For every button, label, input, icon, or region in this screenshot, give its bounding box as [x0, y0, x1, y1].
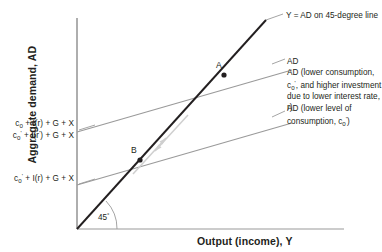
forty-five-degree-line [77, 20, 266, 229]
point-b-marker [137, 157, 142, 162]
eq-upper-2-mid: + I(r [22, 131, 39, 140]
intercept-equation-lower: c0' + I(r) + G + X [0, 172, 74, 185]
arrow-down-left [155, 115, 188, 151]
point-b-label: B [131, 145, 137, 156]
angle-label-value: 45 [98, 213, 107, 222]
y-axis-title: Aggregate demand, AD [26, 25, 39, 185]
x-axis-title: Output (income), Y [197, 235, 293, 248]
leader-line-eq-lower [79, 179, 95, 184]
eq-upper-2-rest: ) + G + X [40, 131, 74, 140]
eq-lower-rest: + I(r) + G + X [23, 174, 74, 183]
angle-label: 45° [98, 212, 110, 224]
annotation-ad: AD [287, 57, 298, 68]
annotation-45-degree-line: Y = AD on 45-degree line [286, 11, 378, 22]
angle-label-degree-sign: ° [107, 212, 109, 218]
leader-line-ad-lower [272, 111, 285, 117]
leader-line-ad-upper [272, 59, 285, 64]
eq-upper-1-rest: + I(r) + G + X [23, 119, 74, 128]
intercept-equation-upper-2: c0' + I(r') + G + X [0, 129, 74, 142]
annotation-ad-lower-consumption: AD (lower level of consumption, c0') [287, 104, 381, 128]
aggregate-demand-diagram: Aggregate demand, AD Output (income), Y … [0, 0, 382, 252]
point-a-label: A [216, 60, 222, 71]
point-a-marker [221, 72, 226, 77]
ad-line-upper [77, 70, 292, 132]
ad-line-lower [77, 123, 292, 185]
leader-line-45 [266, 14, 283, 20]
anno-lower-part2: ) [347, 117, 350, 126]
